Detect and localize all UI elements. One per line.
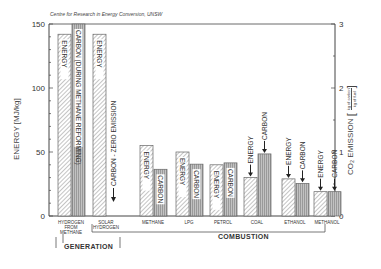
right-tick-label: 1 (339, 148, 344, 157)
arrow-head-icon (111, 197, 116, 202)
bar-energy-ethanol (282, 179, 295, 216)
arrow-head-icon (318, 187, 323, 191)
bar-label-carbon: CARBON (157, 175, 164, 203)
arrow-head-icon (262, 149, 267, 153)
bar-carbon-coal (258, 154, 271, 216)
bar-label-energy: ENERGY (247, 135, 254, 163)
arrow-head-icon (300, 178, 305, 182)
arrow-head-icon (332, 187, 337, 191)
bar-carbon-methanol (328, 192, 341, 216)
bar-label-carbon: CARBON (DURING METHANE REFORMING) (74, 30, 82, 165)
category-label-lpg: LPG (184, 220, 194, 225)
left-tick-label: 100 (32, 84, 46, 93)
plot-area: 0501001500123ENERGYCARBON (DURING METHAN… (32, 20, 344, 248)
bar-label-energy: ENERGY (96, 40, 103, 68)
group-label-combustion: COMBUSTION (218, 233, 269, 240)
bar-energy-methanol (314, 192, 327, 216)
bar-energy-coal (244, 178, 257, 216)
right-tick-label: 3 (339, 20, 344, 29)
group-label-generation: GENERATION (64, 243, 113, 250)
right-tick-label: 2 (339, 84, 344, 93)
bar-label-energy: ENERGY (317, 150, 324, 178)
bar-label-carbon: CARBON (193, 170, 200, 198)
left-tick-label: 50 (36, 148, 45, 157)
bar-label-energy: ENERGY (179, 158, 186, 186)
arrow-head-icon (286, 174, 291, 178)
arrow-head-icon (248, 173, 253, 177)
bar-label-energy: ENERGY (285, 137, 292, 165)
bar-label-carbon: CARBON (227, 169, 234, 197)
combustion-bracket (92, 224, 325, 232)
energy-co2-chart: 0501001500123ENERGYCARBON (DURING METHAN… (0, 0, 381, 269)
bar-label-energy: ENERGY (143, 152, 150, 180)
bar-label-energy: ENERGY (213, 171, 220, 199)
category-label-petrol: PETROL (214, 220, 233, 225)
bar-label-carbon: CARBON (331, 150, 338, 178)
bar-carbon-ethanol (296, 183, 309, 216)
category-label-methanol: METHANOL (314, 220, 340, 225)
category-label-methane: METHANE (142, 220, 164, 225)
category-label-solar-hydrogen: HYDROGEN (93, 225, 119, 230)
category-label-coal: COAL (251, 220, 264, 225)
left-tick-label: 0 (41, 212, 46, 221)
bar-label-carbon: CARBON (299, 141, 306, 169)
bar-label-carbon-zero: CARBON - ZERO EMISSION (110, 100, 117, 186)
left-tick-label: 150 (32, 20, 46, 29)
bar-label-energy: ENERGY (61, 40, 68, 68)
category-label-ethanol: ETHANOL (284, 220, 306, 225)
bar-label-carbon: CARBON (261, 112, 268, 140)
